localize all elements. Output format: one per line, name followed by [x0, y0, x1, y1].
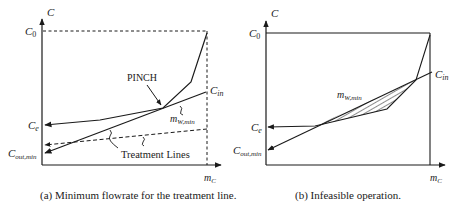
- panel-b-x-label: m: [430, 172, 437, 183]
- svg-text:mW,min: mW,min: [337, 89, 362, 102]
- panel-b: C C0 Cin mW,min Ce Cout,min mC: [233, 7, 449, 185]
- panel-a-caption: (a) Minimum flowrate for the treatment l…: [40, 189, 236, 201]
- panel-a-pinch-arrow: [147, 85, 161, 105]
- panel-a-x-label: m: [204, 172, 211, 183]
- svg-text:Cout,min: Cout,min: [8, 147, 37, 161]
- svg-text:Cout,min: Cout,min: [233, 144, 262, 158]
- panel-b-mw-label: m: [337, 89, 344, 100]
- panel-a-composite-curve: [45, 33, 207, 125]
- panel-a-treatment-lines-label: Treatment Lines: [121, 149, 190, 160]
- panel-b-treatment-line: [268, 72, 432, 150]
- svg-text:Cin: Cin: [435, 68, 449, 82]
- svg-text:mC: mC: [204, 172, 216, 185]
- figure-canvas: C C0 PINCH Cin mW,min Ce Cout,min Treatm…: [0, 0, 451, 205]
- panel-a-pinch-label: PINCH: [127, 72, 157, 83]
- panel-a-y-label: C: [47, 6, 55, 18]
- panel-a-treatment-leader-2: [142, 137, 144, 146]
- panel-a-mw-leader: [180, 106, 183, 115]
- svg-text:Cin: Cin: [210, 84, 224, 98]
- svg-text:mC: mC: [430, 172, 442, 185]
- panel-b-y-label: C: [271, 7, 279, 19]
- panel-a: C C0 PINCH Cin mW,min Ce Cout,min Treatm…: [8, 6, 224, 185]
- panel-b-caption: (b) Infeasible operation.: [295, 189, 401, 201]
- panel-a-treatment-line-dashed: [45, 129, 207, 145]
- svg-text:C0: C0: [25, 25, 36, 39]
- panel-a-treatment-leader-1: [109, 130, 118, 148]
- svg-text:C0: C0: [249, 27, 260, 41]
- svg-text:Ce: Ce: [28, 119, 39, 133]
- panel-a-mw-label: m: [170, 113, 177, 124]
- svg-text:Ce: Ce: [251, 121, 262, 135]
